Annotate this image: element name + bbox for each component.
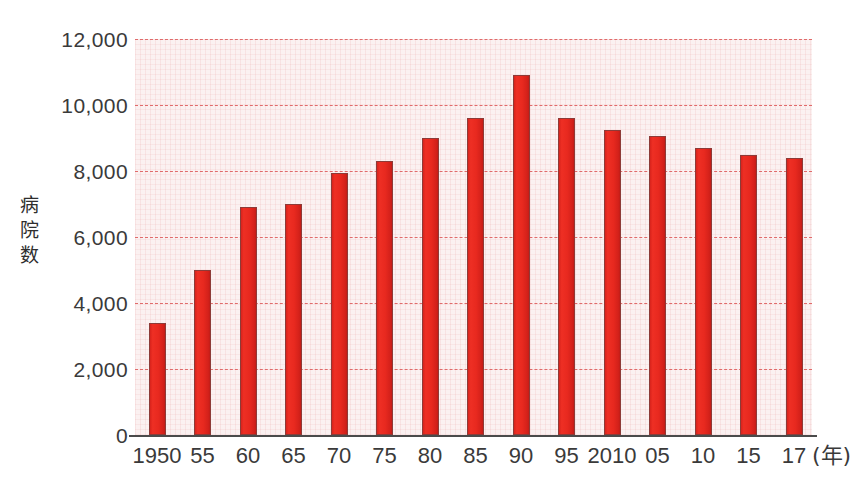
- y-tick-label-4000: 4,000: [28, 293, 128, 314]
- y-tick-label-0: 0: [28, 425, 128, 446]
- bar-90: [513, 75, 530, 435]
- y-tick-label-2000: 2,000: [28, 359, 128, 380]
- hospital-count-bar-chart: 病 院 数 02,0004,0006,0008,00010,00012,000 …: [0, 0, 865, 504]
- bar-10: [695, 148, 712, 435]
- y-tick-label-6000: 6,000: [28, 227, 128, 248]
- y-tick-label-10000: 10,000: [28, 95, 128, 116]
- plot-area: [135, 39, 812, 435]
- x-axis-tick-labels: 1950556065707580859095201005101517(年): [135, 443, 865, 483]
- bar-75: [376, 161, 393, 435]
- bar-55: [194, 270, 211, 435]
- x-axis-unit-label: (年): [812, 443, 851, 469]
- bar-65: [285, 204, 302, 435]
- bar-85: [467, 118, 484, 435]
- bar-15: [740, 155, 757, 436]
- y-tick-label-8000: 8,000: [28, 161, 128, 182]
- bar-80: [422, 138, 439, 435]
- axis-baseline: [129, 435, 817, 437]
- bar-17: [786, 158, 803, 435]
- y-tick-label-12000: 12,000: [28, 29, 128, 50]
- bar-1950: [149, 323, 166, 435]
- bar-2010: [604, 130, 621, 435]
- bar-60: [240, 207, 257, 435]
- bar-70: [331, 173, 348, 435]
- y-axis-tick-labels: 02,0004,0006,0008,00010,00012,000: [20, 0, 128, 504]
- bars-layer: [135, 39, 812, 435]
- bar-95: [558, 118, 575, 435]
- bar-05: [649, 136, 666, 435]
